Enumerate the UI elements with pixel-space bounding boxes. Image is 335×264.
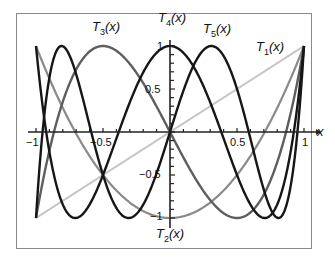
x-axis-label: x (317, 124, 324, 139)
y-tick-minus1: −1 (150, 210, 163, 222)
y-tick-05: 0.5 (145, 83, 160, 95)
x-tick-minus05: −0.5 (90, 136, 112, 148)
label-t4: T4(x) (158, 10, 186, 28)
y-tick-1: 1 (157, 40, 163, 52)
x-tick-05: 0.5 (230, 136, 245, 148)
plot-area (0, 0, 335, 264)
label-t5: T5(x) (203, 21, 231, 39)
y-tick-minus05: −0.5 (139, 168, 161, 180)
label-t2: T2(x) (156, 226, 184, 244)
x-tick-minus1: −1 (26, 136, 39, 148)
label-t3: T3(x) (92, 19, 120, 37)
x-tick-1: 1 (302, 136, 308, 148)
label-t1: T1(x) (256, 39, 284, 57)
